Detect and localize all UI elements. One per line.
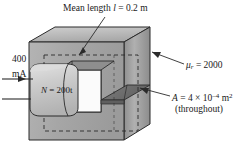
coil-turns-label: N = 200t: [41, 85, 73, 95]
air-gap-slab-front: [101, 100, 124, 104]
area-label: A = 4 × 10–4 m2: [172, 92, 233, 104]
permeability-subscript: r: [191, 63, 194, 71]
core-drawing: [0, 0, 243, 157]
permeability-value: = 2000: [196, 60, 223, 70]
area-units-exponent: 2: [229, 92, 233, 100]
coil-turns-value: = 200t: [49, 85, 72, 95]
permeability-label: μr = 2000: [186, 60, 223, 71]
current-units-label: mA: [12, 69, 26, 80]
magnetic-core-figure: Mean length l = 0.2 m μr = 2000 A = 4 × …: [0, 0, 243, 157]
area-value: = 4 × 10: [180, 93, 212, 103]
mean-length-value: = 0.2 m: [118, 3, 147, 13]
mean-length-prefix: Mean length: [63, 3, 111, 13]
mean-length-symbol: l: [113, 3, 116, 13]
current-value-label: 400: [12, 54, 26, 65]
area-note-label: (throughout): [175, 104, 223, 115]
area-units: m: [219, 93, 229, 103]
area-symbol: A: [172, 93, 178, 103]
mean-length-label: Mean length l = 0.2 m: [63, 3, 148, 14]
core-right-face: [124, 27, 150, 140]
coil-turns-symbol: N: [41, 85, 47, 95]
